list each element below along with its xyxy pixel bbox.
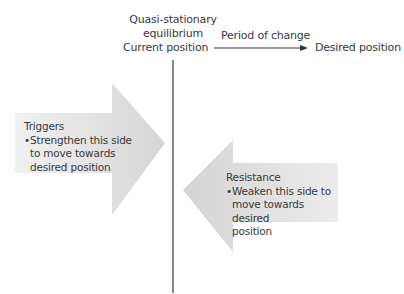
- triggers-title: Triggers: [24, 120, 134, 134]
- resistance-title: Resistance: [226, 171, 341, 185]
- equilibrium-label-line1: Quasi-stationary: [118, 13, 228, 27]
- equilibrium-label: Quasi-stationary equilibrium: [118, 13, 228, 41]
- period-of-change-arrowhead-icon: [300, 45, 308, 51]
- current-position-label: Current position: [123, 41, 208, 55]
- period-of-change-label: Period of change: [221, 29, 310, 43]
- triggers-bullet: • Strengthen this side to move towards d…: [24, 134, 134, 175]
- triggers-bullet-line2: to move towards: [30, 147, 132, 161]
- triggers-bullet-line1: Strengthen this side: [30, 134, 132, 148]
- equilibrium-label-line2: equilibrium: [118, 27, 228, 41]
- triggers-text: Triggers • Strengthen this side to move …: [24, 120, 134, 174]
- triggers-bullet-line3: desired position: [30, 161, 132, 175]
- resistance-text: Resistance • Weaken this side to move to…: [226, 171, 341, 239]
- resistance-bullet: • Weaken this side to move towards desir…: [226, 185, 341, 239]
- resistance-bullet-line3: position: [232, 225, 341, 239]
- resistance-bullet-line1: Weaken this side to: [232, 185, 341, 199]
- resistance-bullet-line2: move towards desired: [232, 198, 341, 225]
- force-field-diagram: Quasi-stationary equilibrium Current pos…: [0, 0, 404, 294]
- desired-position-label: Desired position: [315, 41, 401, 55]
